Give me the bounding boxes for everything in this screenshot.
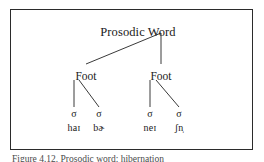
tree-node-ipa-4: ʃn̩ — [175, 123, 184, 133]
tree-node-ipa-3: neɪ — [144, 123, 157, 133]
tree-node-foot-1: Foot — [75, 71, 96, 83]
tree-node-sigma-1: σ — [71, 109, 76, 119]
figure-root: Prosodic Word Foot Foot σ σ σ σ haɪ bɚ n… — [0, 0, 264, 162]
figure-caption: Figure 4.12. Prosodic word: hibernation — [12, 154, 254, 162]
branch-foot-2-to-sigma-4 — [156, 80, 179, 107]
figure-frame: Prosodic Word Foot Foot σ σ σ σ haɪ bɚ n… — [10, 9, 253, 150]
tree-node-sigma-4: σ — [176, 109, 181, 119]
tree-node-sigma-2: σ — [96, 109, 101, 119]
branch-foot-1-to-sigma-2 — [79, 80, 99, 107]
tree-node-prosodic-word: Prosodic Word — [100, 26, 175, 39]
tree-node-foot-2: Foot — [150, 71, 171, 83]
tree-node-ipa-2: bɚ — [93, 123, 105, 133]
tree-node-ipa-1: haɪ — [68, 123, 81, 133]
tree-node-sigma-3: σ — [147, 109, 152, 119]
